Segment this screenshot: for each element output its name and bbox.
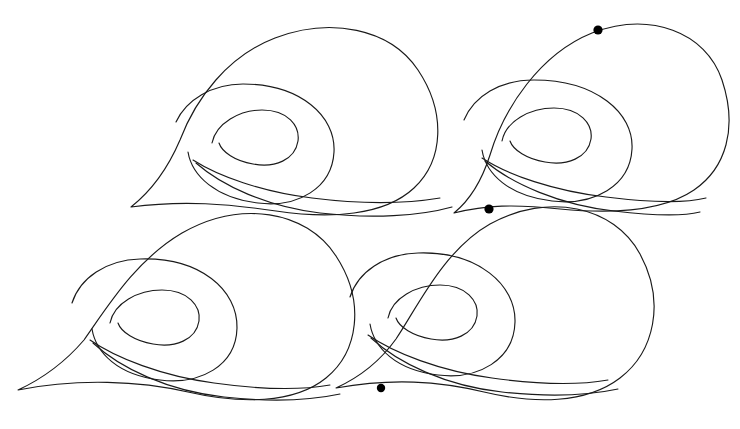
canvas-background [0,0,740,429]
artwork-canvas [0,0,740,429]
wave-spiral-illustration [0,0,740,429]
dot-marker-bottom-right-crest[interactable] [484,204,493,213]
dot-marker-top-right-crest[interactable] [593,25,602,34]
dot-marker-free-floating[interactable] [377,384,385,392]
